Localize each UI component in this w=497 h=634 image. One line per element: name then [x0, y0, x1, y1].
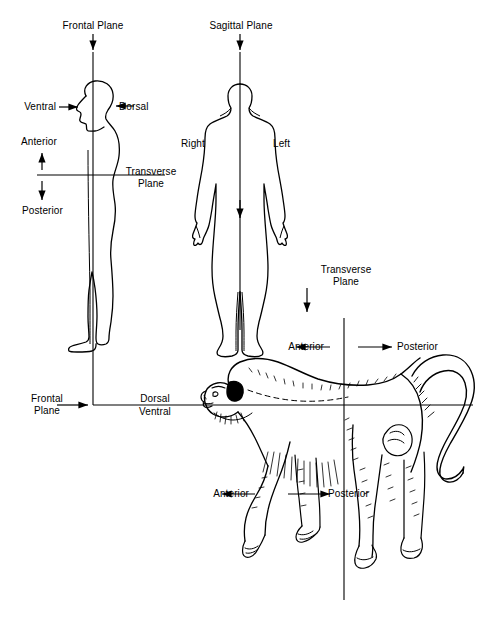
human-lateral-silhouette: [69, 81, 120, 352]
monkey-ear: [227, 381, 243, 401]
human-anterior-silhouette-right: [240, 84, 287, 357]
posterior-label-upper: Posterior: [397, 341, 438, 353]
monkey-hindleg-near-front: [352, 425, 359, 546]
frontal-plane-label-top: Frontal Plane: [48, 20, 138, 32]
monkey-foot-far: [401, 538, 422, 558]
sagittal-plane-label-top: Sagittal Plane: [195, 20, 287, 32]
ventral-label: Ventral: [8, 101, 56, 113]
monkey-callosity-detail: [388, 431, 404, 443]
transverse-plane-label-lateral-line1: Transverse: [121, 166, 181, 178]
ventral-label-monkey: Ventral: [130, 406, 180, 418]
right-label: Right: [181, 138, 205, 150]
human-anterior-silhouette: [193, 84, 240, 357]
monkey-brow: [212, 387, 225, 389]
monkey-chest: [238, 412, 268, 466]
transverse-plane-label-monkey-line2: Plane: [313, 276, 379, 288]
human-lateral-figure: [37, 34, 165, 405]
monkey-midback-dash: [248, 390, 348, 401]
diagram-canvas: Frontal Plane Ventral Dorsal Anterior Po…: [0, 0, 497, 634]
monkey-foreleg-far: [295, 455, 302, 526]
monkey-axes: [57, 288, 473, 600]
anterior-label-lateral: Anterior: [21, 136, 57, 148]
monkey-topline: [228, 358, 420, 385]
monkey-illustration: [201, 355, 474, 568]
anterior-label-upper: Anterior: [238, 341, 324, 353]
monkey-hand-near: [243, 535, 265, 557]
monkey-hindleg-near-back: [372, 455, 382, 557]
frontal-plane-label-monkey-line1: Frontal: [25, 393, 69, 405]
frontal-plane-label-monkey-line2: Plane: [25, 405, 69, 417]
monkey-cheek-fur: [214, 413, 252, 420]
diagram-vector-layer: [0, 0, 497, 634]
dorsal-label-monkey: Dorsal: [130, 393, 180, 405]
posterior-label-lower: Posterior: [328, 488, 369, 500]
left-label: Left: [273, 138, 290, 150]
monkey-tail-outer: [412, 355, 474, 482]
dorsal-label: Dorsal: [119, 101, 149, 113]
monkey-back-hatch: [249, 368, 396, 390]
monkey-foot-near-toes: [357, 557, 373, 560]
monkey-hindleg-far-back: [421, 452, 425, 538]
posterior-label-lateral: Posterior: [22, 205, 63, 217]
transverse-plane-label-lateral-line2: Plane: [121, 178, 181, 190]
monkey-mouth: [203, 403, 213, 404]
monkey-foot-far-toes: [403, 549, 420, 552]
human-anterior-hand-left: [196, 226, 200, 238]
monkey-ischial-callosity: [383, 425, 412, 456]
monkey-rump: [401, 374, 422, 472]
human-anterior-figure: [193, 34, 288, 357]
human-lateral-head-face: [77, 96, 105, 131]
transverse-plane-label-monkey-line1: Transverse: [313, 264, 379, 276]
monkey-eye: [213, 392, 218, 396]
monkey-tail-inner: [420, 371, 466, 479]
human-anterior-hand-right: [280, 226, 284, 238]
anterior-label-lower: Anterior: [163, 488, 249, 500]
